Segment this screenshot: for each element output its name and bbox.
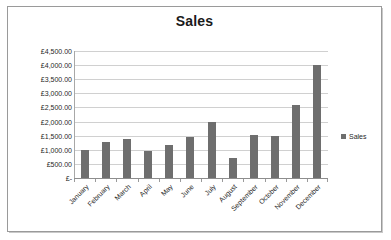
chart-frame: Sales £4,500.00£4,000.00£3,500.00£3,000.… <box>7 6 382 232</box>
bar-slot <box>265 51 286 178</box>
y-axis-tick-label: £2,000.00 <box>10 118 72 125</box>
bar[interactable] <box>144 151 152 178</box>
plot-area <box>74 51 328 179</box>
bar[interactable] <box>81 150 89 178</box>
chart-title: Sales <box>8 13 381 29</box>
bar-slot <box>307 51 328 178</box>
x-axis-label-slot: May <box>159 183 180 233</box>
x-axis-label-slot: February <box>95 183 116 233</box>
x-axis-tick-label: April <box>138 183 153 198</box>
x-axis-tick-labels: JanuaryFebruaryMarchAprilMayJuneJulyAugu… <box>74 183 328 233</box>
x-axis-tick-label: March <box>113 183 132 202</box>
legend-item-label: Sales <box>349 133 367 140</box>
y-axis-tick-label: £3,500.00 <box>10 76 72 83</box>
x-axis-tick-label: May <box>160 183 174 197</box>
bar-slot <box>116 51 137 178</box>
y-axis-tick-label: £3,000.00 <box>10 90 72 97</box>
bar[interactable] <box>123 139 131 179</box>
bar[interactable] <box>165 145 173 178</box>
bar[interactable] <box>313 65 321 178</box>
bar[interactable] <box>229 158 237 178</box>
bar-slot <box>222 51 243 178</box>
bar[interactable] <box>102 142 110 178</box>
y-axis-tick-labels: £4,500.00£4,000.00£3,500.00£3,000.00£2,5… <box>8 51 72 179</box>
bar-slot <box>243 51 264 178</box>
square-marker-icon <box>341 134 346 139</box>
x-axis-tick-label: July <box>203 183 217 197</box>
bar[interactable] <box>186 137 194 178</box>
x-axis-label-slot: April <box>138 183 159 233</box>
x-axis-label-slot: September <box>243 183 264 233</box>
x-axis-label-slot: January <box>74 183 95 233</box>
bar[interactable] <box>271 136 279 178</box>
bar-slot <box>286 51 307 178</box>
y-axis-tick-label: £4,000.00 <box>10 62 72 69</box>
y-axis-tick-label: £4,500.00 <box>10 48 72 55</box>
y-axis-tick-label: £1,500.00 <box>10 132 72 139</box>
bar-slot <box>180 51 201 178</box>
bar-slot <box>138 51 159 178</box>
y-axis-tick-label: £500.00 <box>10 160 72 167</box>
chart-legend: Sales <box>341 133 367 140</box>
bar[interactable] <box>208 122 216 178</box>
x-axis-tick-label: June <box>180 183 196 199</box>
y-axis-tick-label: £- <box>10 175 72 182</box>
x-axis-label-slot: December <box>307 183 328 233</box>
y-axis-tick-label: £1,000.00 <box>10 146 72 153</box>
bar-slot <box>74 51 95 178</box>
bar-slot <box>201 51 222 178</box>
x-axis-label-slot: July <box>201 183 222 233</box>
bar-series-sales <box>74 51 328 178</box>
bar-slot <box>95 51 116 178</box>
bar-slot <box>159 51 180 178</box>
y-axis-tick-label: £2,500.00 <box>10 104 72 111</box>
bar[interactable] <box>250 135 258 178</box>
x-axis-label-slot: March <box>116 183 137 233</box>
bar[interactable] <box>292 105 300 178</box>
x-axis-label-slot: June <box>180 183 201 233</box>
